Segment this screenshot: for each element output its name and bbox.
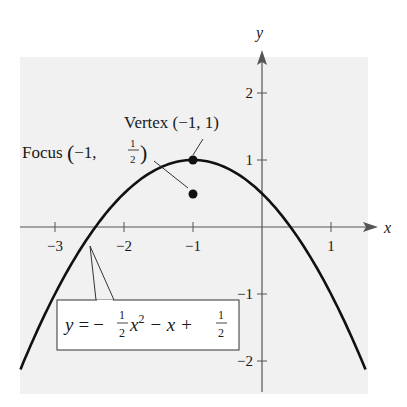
x-tick-label: −3: [47, 238, 63, 254]
svg-text:1: 1: [130, 137, 136, 149]
svg-text:1: 1: [119, 308, 125, 322]
svg-text:2: 2: [130, 153, 136, 165]
y-axis-label: y: [254, 24, 264, 42]
y-tick-label: −2: [237, 353, 253, 369]
x-tick-label: 1: [327, 238, 335, 254]
svg-text:): ): [140, 140, 147, 165]
x-tick-label: −2: [116, 238, 132, 254]
svg-text:1: 1: [218, 308, 224, 322]
parabola-chart: x y −3−2−11 21−1−2 Vertex (−1, 1) Focus …: [0, 0, 407, 407]
vertex-point: [189, 156, 198, 165]
svg-text:2: 2: [218, 326, 224, 340]
svg-text:Focus (−1,: Focus (−1,: [22, 140, 97, 165]
y-tick-label: 1: [246, 152, 254, 168]
focus-point: [189, 190, 198, 199]
vertex-label: Vertex (−1, 1): [124, 113, 219, 132]
y-tick-label: 2: [246, 85, 254, 101]
x-tick-label: −1: [185, 238, 201, 254]
svg-text:y=−: y=−: [63, 314, 104, 335]
x-axis-label: x: [383, 219, 391, 236]
svg-text:2: 2: [119, 326, 125, 340]
